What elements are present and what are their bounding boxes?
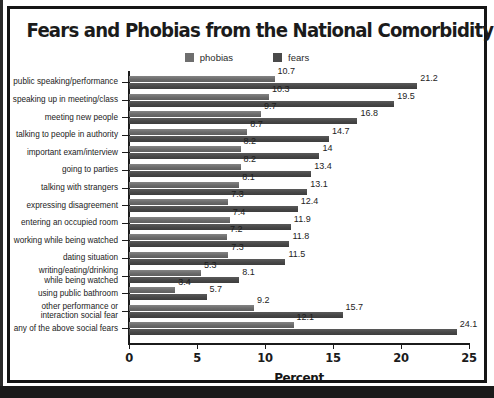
legend-swatch-fears (273, 53, 282, 62)
bar-phobias (129, 305, 254, 311)
category-label-line: meeting new people (8, 113, 118, 122)
bar-value-label: 11.8 (292, 232, 309, 241)
x-axis-tick-label: 10 (257, 351, 272, 365)
y-axis-tick (122, 135, 128, 136)
category-label-line: talking with strangers (8, 183, 118, 192)
category-label-line: using public bathroom (8, 289, 118, 298)
category-label: any of the above social fears (8, 324, 118, 333)
category-label: expressing disagreement (8, 201, 118, 210)
page-title: Fears and Phobias from the National Como… (27, 19, 468, 42)
category-label-line: important exam/interview (8, 148, 118, 157)
bar-phobias (129, 146, 241, 152)
bar-phobias (129, 129, 247, 135)
x-axis-tick (129, 343, 130, 349)
bars-container: 10.721.210.319.59.716.88.714.78.2148.213… (129, 71, 469, 343)
bar-value-label: 11.9 (294, 215, 311, 224)
bar-value-label: 21.2 (420, 74, 438, 83)
category-label-line: public speaking/performance (8, 77, 118, 86)
bar-value-label: 5.3 (204, 261, 217, 270)
bar-fears (129, 224, 291, 230)
category-label-line: expressing disagreement (8, 201, 118, 210)
category-label-line: speaking up in meeting/class (8, 95, 118, 104)
chart-frame: Fears and Phobias from the National Como… (7, 6, 487, 383)
category-label: writing/eating/drinkingwhile being watch… (8, 266, 118, 284)
legend-label-phobias: phobias (200, 53, 233, 63)
category-label: meeting new people (8, 113, 118, 122)
x-axis-tick (333, 343, 334, 349)
y-axis-tick (122, 205, 128, 206)
bar-phobias (129, 76, 275, 82)
bar-fears (129, 241, 289, 247)
bar-fears (129, 153, 319, 159)
x-axis-tick-label: 15 (325, 351, 340, 365)
bar-value-label: 3.4 (178, 278, 191, 287)
x-axis-title: Percent (129, 371, 469, 385)
x-axis-tick-label: 25 (461, 351, 476, 365)
bar-value-label: 14.7 (332, 127, 350, 136)
bar-value-label: 8.2 (244, 137, 257, 146)
x-axis-tick (197, 343, 198, 349)
y-axis-tick (122, 100, 128, 101)
bar-value-label: 5.7 (210, 285, 223, 294)
x-axis-tick (469, 343, 470, 349)
bar-phobias (129, 164, 241, 170)
y-axis-tick (122, 117, 128, 118)
bar-value-label: 9.2 (257, 296, 270, 305)
bar-fears (129, 171, 311, 177)
bar-value-label: 10.3 (272, 85, 290, 94)
category-label: using public bathroom (8, 289, 118, 298)
chart-legend: phobias fears (10, 53, 484, 63)
legend-label-fears: fears (288, 53, 309, 63)
y-axis-tick (122, 152, 128, 153)
x-axis-tick (265, 343, 266, 349)
bar-fears (129, 329, 457, 335)
bar-phobias (129, 234, 227, 240)
bar-fears (129, 294, 207, 300)
bar-value-label: 16.8 (360, 109, 378, 118)
y-axis-tick (122, 276, 128, 277)
bar-fears (129, 189, 307, 195)
category-label: entering an occupied room (8, 218, 118, 227)
category-label: speaking up in meeting/class (8, 95, 118, 104)
bar-value-label: 12.4 (301, 197, 319, 206)
y-axis-tick (122, 293, 128, 294)
chart-page: Fears and Phobias from the National Como… (0, 0, 494, 398)
plot-area: public speaking/performancespeaking up i… (10, 71, 484, 381)
category-axis-labels: public speaking/performancespeaking up i… (10, 71, 122, 343)
category-label: talking to people in authority (8, 130, 118, 139)
category-label: other performance orinteraction social f… (8, 302, 118, 320)
bar-phobias (129, 182, 239, 188)
bar-value-label: 7.3 (231, 190, 244, 199)
bar-value-label: 10.7 (278, 67, 296, 76)
category-label: public speaking/performance (8, 77, 118, 86)
bar-value-label: 24.1 (460, 320, 478, 329)
category-label-line: dating situation (8, 253, 118, 262)
category-label-line: working while being watched (8, 236, 118, 245)
bar-phobias (129, 252, 228, 258)
category-label: working while being watched (8, 236, 118, 245)
bar-value-label: 19.5 (397, 92, 415, 101)
y-axis-tick (122, 223, 128, 224)
x-axis-tick-label: 20 (393, 351, 408, 365)
bar-phobias (129, 199, 228, 205)
y-axis-tick (122, 82, 128, 83)
y-axis-tick (122, 258, 128, 259)
bar-fears (129, 136, 329, 142)
x-axis-tick-label: 5 (193, 351, 201, 365)
category-label: talking with strangers (8, 183, 118, 192)
x-axis-tick (401, 343, 402, 349)
bar-phobias (129, 287, 175, 293)
bar-phobias (129, 217, 230, 223)
bar-value-label: 8.2 (244, 155, 257, 164)
legend-item-phobias: phobias (185, 53, 233, 63)
y-axis-tick (122, 328, 128, 329)
bar-value-label: 15.7 (346, 303, 364, 312)
x-axis-line (129, 343, 469, 345)
bar-phobias (129, 322, 294, 328)
bar-value-label: 8.7 (250, 120, 263, 129)
bar-value-label: 7.3 (231, 243, 244, 252)
category-label-line: any of the above social fears (8, 324, 118, 333)
category-label: important exam/interview (8, 148, 118, 157)
bar-phobias (129, 111, 261, 117)
category-label-line: while being watched (8, 276, 118, 285)
